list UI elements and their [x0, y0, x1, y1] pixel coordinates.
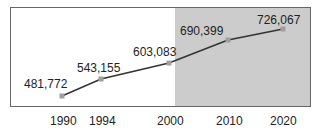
x-tick-2010: 2010 [216, 114, 243, 128]
x-tick-1990: 1990 [50, 114, 77, 128]
data-label-2010: 690,399 [180, 24, 224, 38]
line-chart: 481,772 543,155 603,083 690,399 726,067 … [0, 0, 321, 134]
data-label-2020: 726,067 [257, 13, 301, 27]
x-tick-2000: 2000 [157, 114, 184, 128]
x-tick-2020: 2020 [270, 114, 297, 128]
marker-2020 [281, 27, 286, 32]
x-axis-ticks: 1990 1994 2000 2010 2020 [50, 114, 297, 128]
data-label-1994: 543,155 [77, 61, 121, 75]
marker-1990 [60, 94, 65, 99]
x-tick-1994: 1994 [89, 114, 116, 128]
marker-1994 [99, 77, 104, 82]
marker-2000 [167, 61, 172, 66]
marker-2010 [226, 38, 231, 43]
data-label-1990: 481,772 [24, 77, 68, 91]
data-label-2000: 603,083 [133, 45, 177, 59]
